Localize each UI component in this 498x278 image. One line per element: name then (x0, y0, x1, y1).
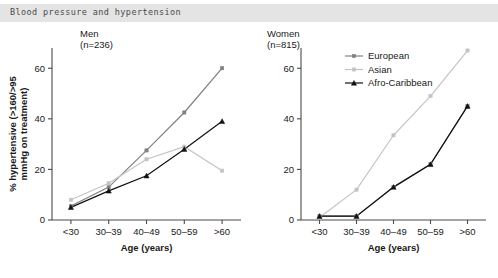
data-point (392, 134, 395, 137)
y-axis-title: % hypertensive (>160/>95mmHg on treatmen… (7, 75, 29, 191)
chart-panel-men: Men (n=236) 0204060<3030–3940–4950–59>60… (0, 26, 249, 278)
legend-item-european[interactable]: European (345, 50, 409, 61)
y-axis-title-line2: mmHg on treatment) (18, 88, 29, 181)
x-tick-label: <30 (311, 226, 327, 237)
y-tick-label: 40 (283, 113, 294, 124)
x-tick-label: <30 (63, 226, 79, 237)
x-tick-label: 40–49 (133, 226, 159, 237)
legend-label: European (368, 50, 409, 61)
y-tick-label: 60 (283, 63, 294, 74)
data-point (107, 182, 110, 185)
x-axis-title: Age (years) (121, 242, 173, 253)
x-tick-label: >60 (214, 226, 230, 237)
y-tick-label: 60 (34, 63, 45, 74)
data-point (429, 94, 432, 97)
y-axis-title-line1: % hypertensive (>160/>95 (7, 75, 18, 191)
legend-label: Asian (368, 64, 392, 75)
legend-item-asian[interactable]: Asian (345, 64, 392, 75)
x-tick-label: 30–39 (343, 226, 369, 237)
data-point (183, 111, 186, 114)
x-axis-title: Age (years) (368, 242, 420, 253)
x-tick-label: 50–59 (171, 226, 197, 237)
page-title: Blood pressure and hypertension (10, 7, 181, 17)
line-chart-women: 0204060<3030–3940–4950–59>60Age (years)E… (249, 26, 498, 278)
series-line-afro-caribbean (320, 106, 468, 216)
data-point (145, 158, 148, 161)
series-line-european (71, 68, 222, 206)
x-tick-label: 30–39 (95, 226, 121, 237)
y-tick-label: 20 (283, 164, 294, 175)
x-tick-label: 50–59 (417, 226, 443, 237)
chart-legend: EuropeanAsianAfro-Caribbean (345, 50, 432, 88)
y-tick-label: 0 (289, 214, 294, 225)
line-chart-men: 0204060<3030–3940–4950–59>60Age (years)%… (0, 26, 249, 278)
y-tick-label: 40 (34, 113, 45, 124)
series-line-european (320, 106, 468, 216)
chart-panel-women: Women (n=815) 0204060<3030–3940–4950–59>… (249, 26, 498, 278)
data-point (355, 188, 358, 191)
data-point (145, 149, 148, 152)
x-tick-label: 40–49 (380, 226, 406, 237)
legend-label: Afro-Caribbean (368, 77, 432, 88)
y-tick-label: 20 (34, 164, 45, 175)
x-tick-label: >60 (459, 226, 475, 237)
y-tick-label: 0 (40, 214, 45, 225)
data-point (69, 198, 72, 201)
data-point (220, 67, 223, 70)
legend-item-afro-caribbean[interactable]: Afro-Caribbean (345, 77, 432, 88)
legend-marker (352, 68, 355, 71)
data-point (220, 169, 223, 172)
data-point (466, 49, 469, 52)
data-point (220, 119, 225, 124)
legend-marker (352, 54, 355, 57)
